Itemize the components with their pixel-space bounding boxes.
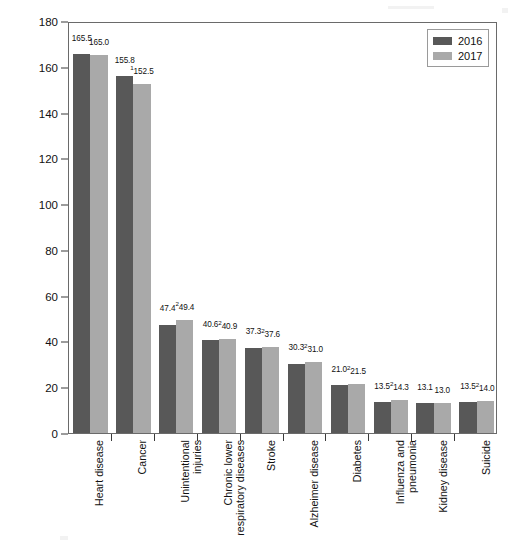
y-tick-mark [61,296,68,297]
bar-chart-figure: Deaths Per 100,000 U.S. Standard Populat… [0,0,514,555]
bar-2017 [477,401,494,433]
bar-2017 [176,320,193,433]
bar-value-label: 13.5 [460,383,476,391]
legend-item-2016: 2016 [433,33,482,48]
bar-value-label: 40.6 [203,321,219,329]
footnote-marker: 1 [130,64,133,71]
y-tick-label: 0 [52,428,58,440]
legend-label: 2016 [458,35,482,47]
footnote-marker: 2 [476,381,479,388]
y-tick-label: 100 [39,199,58,211]
legend-swatch [433,37,452,45]
bars-layer: 165.5165.0155.81152.547.4249.440.6240.93… [69,23,496,433]
x-category-label: Unintentional injuries [180,440,203,550]
y-tick-mark [61,388,68,389]
bar-group: 37.3237.6 [241,23,284,433]
x-axis-category-labels: Heart diseaseCancerUnintentional injurie… [68,440,497,552]
x-category-label: Alzheimer disease [309,440,321,550]
footnote-marker: 2 [218,319,221,326]
bar-value-label: 13.5 [374,383,390,391]
bar-group: 30.3231.0 [284,23,327,433]
bar-value-label: 1152.5 [130,68,153,76]
bar-value-label: 214.3 [390,384,409,392]
chart-legend: 20162017 [427,29,489,67]
bar-2017 [391,400,408,433]
bar-2017 [133,84,150,433]
y-tick-mark [61,342,68,343]
bar-2016 [73,54,90,433]
x-category-label: Influenza and pneumonia [395,440,418,550]
y-tick-label: 20 [45,382,58,394]
y-tick-mark [61,205,68,206]
bar-2016 [288,364,305,433]
footnote-marker: 2 [390,380,393,387]
bar-group: 21.0221.5 [326,23,369,433]
y-tick-label: 180 [39,16,58,28]
x-category-label: Cancer [137,440,149,550]
x-category-label: Heart disease [94,440,106,550]
bar-2016 [245,348,262,433]
bar-value-label: 21.0 [331,366,347,374]
bar-2016 [116,76,133,433]
scan-artifact [388,6,434,9]
bar-value-label: 165.0 [89,39,109,47]
footnote-marker: 2 [304,342,307,349]
y-tick-mark [61,22,68,23]
scan-artifact [60,536,68,540]
scan-artifact [502,8,508,13]
bar-2016 [459,402,476,433]
bar-2017 [305,362,322,433]
bar-group: 13.5214.3 [369,23,412,433]
bar-value-label: 237.6 [261,331,280,339]
y-tick-label: 40 [45,336,58,348]
bar-2016 [202,340,219,433]
bar-value-label: 13.0 [434,387,450,395]
y-tick-mark [61,434,68,435]
x-category-label: Suicide [481,440,493,550]
y-axis-ticks: 020406080100120140160180 [28,22,68,434]
bar-2017 [348,384,365,433]
bar-2016 [416,403,433,433]
footnote-marker: 2 [261,327,264,334]
footnote-marker: 2 [347,364,350,371]
bar-2016 [331,385,348,433]
x-category-label: Stroke [266,440,278,550]
y-tick-label: 160 [39,62,58,74]
bar-value-label: 30.3 [289,344,305,352]
bar-2017 [90,55,107,433]
bar-value-label: 240.9 [218,323,237,331]
bar-group: 155.81152.5 [112,23,155,433]
bar-value-label: 231.0 [304,346,323,354]
bar-value-label: 13.1 [417,384,433,392]
bar-group: 47.4249.4 [155,23,198,433]
bar-2016 [374,402,391,433]
plot-area: 165.5165.0155.81152.547.4249.440.6240.93… [68,22,497,434]
legend-label: 2017 [458,50,482,62]
y-axis-title: Deaths Per 100,000 U.S. Standard Populat… [0,0,18,58]
y-tick-label: 80 [45,245,58,257]
y-tick-label: 140 [39,108,58,120]
bar-group: 13.113.0 [412,23,455,433]
y-tick-mark [61,67,68,68]
bar-2016 [159,325,176,433]
y-tick-mark [61,159,68,160]
bar-value-label: 249.4 [175,304,194,312]
bar-value-label: 37.3 [246,328,262,336]
bar-value-label: 221.5 [347,368,366,376]
bar-value-label: 47.4 [160,305,176,313]
bar-2017 [262,347,279,433]
legend-item-2017: 2017 [433,48,482,63]
bar-group: 40.6240.9 [198,23,241,433]
x-category-label: Diabetes [352,440,364,550]
bar-2017 [219,339,236,433]
x-category-label: Kidney disease [438,440,450,550]
bar-2017 [434,403,451,433]
y-tick-mark [61,113,68,114]
footnote-marker: 2 [175,300,178,307]
y-tick-mark [61,250,68,251]
y-tick-label: 120 [39,153,58,165]
bar-group: 165.5165.0 [69,23,112,433]
x-category-label: Chronic lower respiratory diseases [223,440,246,550]
legend-swatch [433,52,452,60]
bar-group: 13.5214.0 [455,23,498,433]
